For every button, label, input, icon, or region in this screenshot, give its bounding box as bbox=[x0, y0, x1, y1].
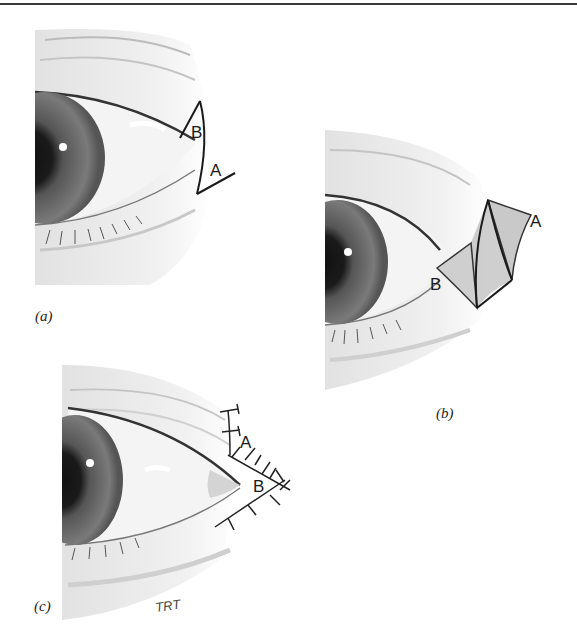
figure-illustrations: B A A B bbox=[0, 0, 577, 637]
panel-a-illustration bbox=[0, 29, 211, 285]
panel-c-label-b: B bbox=[253, 477, 264, 496]
panel-b-caption: (b) bbox=[436, 405, 454, 422]
panel-a-caption: (a) bbox=[35, 308, 53, 325]
panel-c-illustration bbox=[27, 365, 240, 620]
artist-signature: TRT bbox=[154, 596, 182, 614]
panel-a-label-b: B bbox=[191, 123, 202, 142]
panel-c-caption: (c) bbox=[34, 598, 51, 615]
panel-b-label-a: A bbox=[530, 212, 542, 231]
panel-c-label-a: A bbox=[240, 433, 252, 452]
panel-b-label-b: B bbox=[430, 275, 441, 294]
panel-a-label-a: A bbox=[210, 161, 222, 180]
